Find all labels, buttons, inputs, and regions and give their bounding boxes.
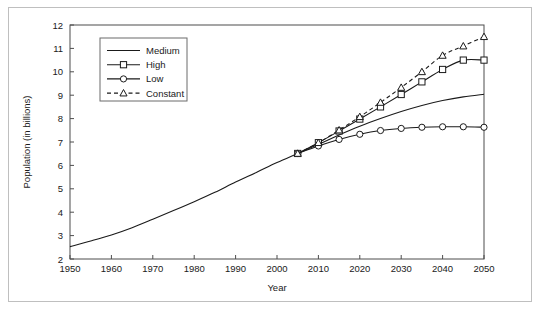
- y-tick-label: 8: [58, 113, 63, 124]
- marker-low: [440, 124, 446, 130]
- population-projection-chart: 1950196019701980199020002010202020302040…: [0, 0, 541, 317]
- marker-high: [440, 66, 446, 72]
- chart-legend: MediumHighLowConstant: [100, 38, 187, 101]
- y-tick-label: 9: [58, 90, 63, 101]
- y-axis-title: Population (in billions): [21, 96, 32, 189]
- x-axis-title: Year: [267, 282, 286, 293]
- y-tick-label: 2: [58, 254, 63, 265]
- marker-high: [481, 57, 487, 63]
- legend-label: Constant: [146, 88, 184, 99]
- x-tick-label: 2000: [266, 263, 287, 274]
- x-tick-label: 2040: [432, 263, 453, 274]
- y-tick-label: 5: [58, 183, 63, 194]
- y-tick-label: 7: [58, 137, 63, 148]
- series-line-constant: [298, 37, 484, 154]
- y-tick-label: 12: [52, 20, 63, 31]
- marker-constant: [480, 33, 487, 39]
- x-tick-label: 1980: [184, 263, 205, 274]
- series-line-high: [298, 59, 484, 153]
- marker-high: [460, 57, 466, 63]
- x-tick-label: 1970: [142, 263, 163, 274]
- marker-high: [398, 91, 404, 97]
- x-tick-label: 2050: [473, 263, 494, 274]
- legend-label: High: [146, 59, 166, 70]
- x-tick-label: 1950: [59, 263, 80, 274]
- marker-low: [336, 136, 342, 142]
- marker-constant: [460, 43, 467, 49]
- y-tick-label: 11: [53, 43, 63, 54]
- marker-constant: [377, 99, 384, 105]
- figure-container: 1950196019701980199020002010202020302040…: [0, 0, 541, 317]
- y-tick-label: 6: [58, 160, 63, 171]
- marker-low: [398, 125, 404, 131]
- y-tick-label: 3: [58, 230, 63, 241]
- series-medium: [70, 94, 484, 246]
- legend-label: Low: [146, 73, 164, 84]
- marker-constant: [398, 84, 405, 90]
- x-tick-label: 1960: [101, 263, 122, 274]
- legend-sample-marker: [120, 76, 126, 82]
- x-tick-label: 2030: [391, 263, 412, 274]
- x-tick-label: 2010: [308, 263, 329, 274]
- series-line-medium: [70, 94, 484, 246]
- x-axis-ticks: 1950196019701980199020002010202020302040…: [59, 255, 494, 274]
- marker-low: [357, 131, 363, 137]
- series-line-low: [298, 127, 484, 154]
- marker-low: [377, 127, 383, 133]
- marker-constant: [418, 68, 425, 74]
- legend-label: Medium: [146, 45, 180, 56]
- y-tick-label: 10: [52, 66, 63, 77]
- marker-low: [481, 124, 487, 130]
- legend-sample-marker: [120, 62, 126, 68]
- marker-high: [419, 79, 425, 85]
- marker-low: [460, 124, 466, 130]
- y-tick-label: 4: [58, 207, 63, 218]
- x-tick-label: 2020: [349, 263, 370, 274]
- marker-low: [419, 124, 425, 130]
- marker-constant: [439, 52, 446, 58]
- y-axis-ticks: 23456789101112: [52, 20, 74, 265]
- series-constant: [294, 33, 487, 156]
- x-tick-label: 1990: [225, 263, 246, 274]
